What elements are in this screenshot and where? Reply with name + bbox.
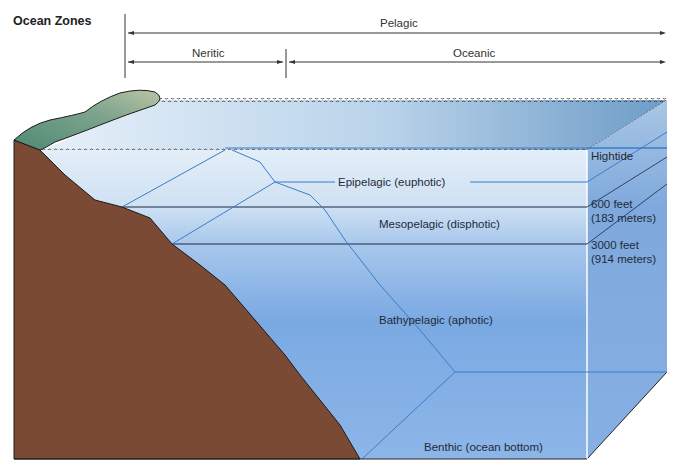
depth-3000ft-label: 3000 feet <box>591 239 640 251</box>
pelagic-label: Pelagic <box>380 17 418 29</box>
mesopelagic-label: Mesopelagic (disphotic) <box>379 218 500 230</box>
depth-600ft-label: 600 feet <box>591 198 633 210</box>
diagram-title: Ocean Zones <box>13 14 92 28</box>
neritic-label: Neritic <box>192 47 225 59</box>
benthic-label: Benthic (ocean bottom) <box>424 441 543 453</box>
ocean-zones-diagram: Ocean Zones Pelagic Neritic Oceanic <box>0 0 675 469</box>
depth-914m-label: (914 meters) <box>591 253 656 265</box>
oceanic-label: Oceanic <box>453 47 495 59</box>
hightide-label: Hightide <box>591 150 633 162</box>
depth-183m-label: (183 meters) <box>591 212 656 224</box>
epipelagic-label: Epipelagic (euphotic) <box>338 176 446 188</box>
bathypelagic-label: Bathypelagic (aphotic) <box>379 314 493 326</box>
